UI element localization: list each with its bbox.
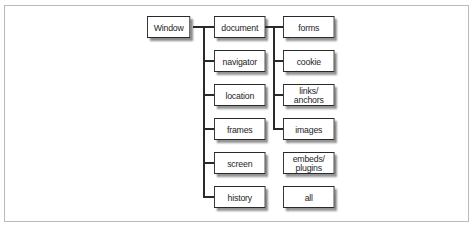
node-document: document bbox=[214, 16, 266, 38]
node-document-label: document bbox=[221, 23, 258, 32]
branch-forms bbox=[273, 26, 283, 28]
node-window-label: Window bbox=[154, 23, 184, 32]
branch-history bbox=[203, 196, 214, 198]
node-links-anchors-line2: anchors bbox=[294, 95, 324, 104]
node-links-anchors: links/ anchors bbox=[283, 84, 335, 106]
node-frames: frames bbox=[214, 118, 266, 140]
node-embeds-plugins: embeds/ plugins bbox=[283, 152, 335, 174]
branch-cookie bbox=[273, 60, 283, 62]
node-images-label: images bbox=[295, 125, 322, 134]
node-forms-label: forms bbox=[298, 23, 319, 32]
node-frames-label: frames bbox=[227, 125, 253, 134]
node-screen-label: screen bbox=[227, 159, 252, 168]
branch-screen bbox=[203, 162, 214, 164]
node-history-label: history bbox=[228, 193, 252, 202]
node-images: images bbox=[283, 118, 335, 140]
trunk-window-children bbox=[203, 26, 205, 197]
branch-frames bbox=[203, 128, 214, 130]
node-history: history bbox=[214, 186, 266, 208]
trunk-document-children bbox=[273, 26, 275, 129]
node-navigator-label: navigator bbox=[223, 57, 257, 66]
branch-links-anchors bbox=[273, 94, 283, 96]
node-location-label: location bbox=[225, 91, 254, 100]
node-cookie: cookie bbox=[283, 50, 335, 72]
node-embeds-plugins-line2: plugins bbox=[296, 163, 322, 172]
node-all-label: all bbox=[305, 193, 313, 202]
node-screen: screen bbox=[214, 152, 266, 174]
node-all: all bbox=[283, 186, 335, 208]
branch-navigator bbox=[203, 60, 214, 62]
branch-document bbox=[203, 26, 214, 28]
branch-location bbox=[203, 94, 214, 96]
node-window: Window bbox=[147, 16, 190, 38]
node-navigator: navigator bbox=[214, 50, 266, 72]
node-forms: forms bbox=[283, 16, 335, 38]
branch-images bbox=[273, 128, 283, 130]
node-cookie-label: cookie bbox=[297, 57, 321, 66]
node-location: location bbox=[214, 84, 266, 106]
